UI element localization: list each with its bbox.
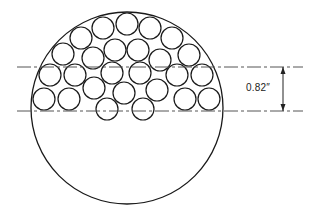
small-circle bbox=[178, 44, 200, 66]
small-circle bbox=[58, 88, 80, 110]
small-circle bbox=[104, 39, 126, 61]
small-circle bbox=[198, 88, 220, 110]
small-circle bbox=[139, 17, 161, 39]
small-circle bbox=[146, 79, 168, 101]
small-circle bbox=[52, 43, 74, 65]
small-circle bbox=[101, 62, 123, 84]
outer-circle bbox=[31, 12, 223, 204]
small-circle bbox=[82, 47, 104, 69]
small-circle bbox=[127, 39, 149, 61]
small-circle bbox=[33, 88, 55, 110]
arrow-up-icon bbox=[281, 67, 286, 74]
small-circle bbox=[149, 49, 171, 71]
small-circle bbox=[116, 13, 138, 35]
small-circle bbox=[174, 88, 196, 110]
small-circle bbox=[132, 98, 154, 120]
packed-circles-diagram bbox=[0, 0, 313, 216]
dimension-label: 0.82″ bbox=[246, 82, 270, 93]
small-circle bbox=[83, 77, 105, 99]
small-circle bbox=[96, 98, 118, 120]
small-circle bbox=[161, 27, 183, 49]
small-circle bbox=[92, 17, 114, 39]
arrow-down-icon bbox=[281, 104, 286, 111]
small-circle bbox=[129, 62, 151, 84]
small-circle bbox=[113, 82, 135, 104]
small-circle bbox=[70, 27, 92, 49]
